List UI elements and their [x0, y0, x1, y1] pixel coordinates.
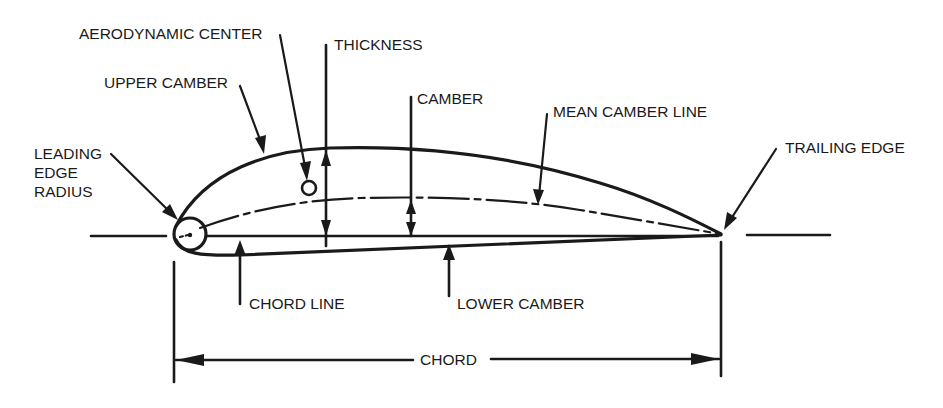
label-camber: CAMBER	[417, 90, 483, 107]
label-chord-line: CHORD LINE	[249, 295, 345, 312]
label-leading-edge-radius-line3: RADIUS	[34, 183, 93, 200]
leader-chord-line	[234, 240, 246, 304]
label-chord: CHORD	[420, 351, 477, 368]
label-trailing-edge: TRAILING EDGE	[785, 139, 905, 156]
label-mean-camber-line: MEAN CAMBER LINE	[553, 103, 707, 120]
leading-edge-radius-circle	[174, 218, 206, 250]
leader-upper-camber	[240, 86, 266, 154]
thickness-dimension	[321, 45, 331, 246]
label-upper-camber: UPPER CAMBER	[104, 74, 228, 91]
mean-camber-line	[200, 198, 721, 235]
label-aerodynamic-center: AERODYNAMIC CENTER	[79, 25, 262, 42]
leader-mean-camber-line	[533, 114, 547, 205]
leader-trailing-edge	[724, 149, 776, 230]
label-leading-edge-radius-line1: LEADING	[34, 145, 102, 162]
leader-aerodynamic-center	[280, 35, 311, 181]
aerodynamic-center-marker	[302, 181, 316, 195]
label-lower-camber: LOWER CAMBER	[457, 295, 584, 312]
leader-lower-camber	[443, 244, 455, 296]
leader-leading-edge-radius	[111, 154, 178, 220]
airfoil-diagram: AERODYNAMIC CENTER THICKNESS UPPER CAMBE…	[0, 0, 943, 408]
label-thickness: THICKNESS	[334, 36, 423, 53]
camber-dimension	[406, 97, 416, 236]
label-leading-edge-radius-line2: EDGE	[34, 164, 78, 181]
